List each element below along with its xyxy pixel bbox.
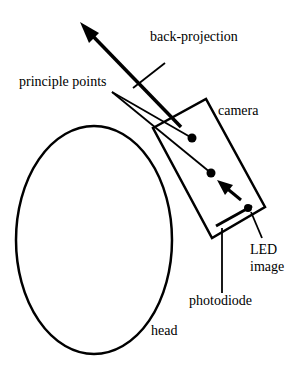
camera-led-diagram: back-projection principle points camera … <box>0 0 306 375</box>
led-label-line1: LED <box>250 242 277 257</box>
led-label-line2: image <box>250 259 284 274</box>
principle-point-2 <box>207 169 216 178</box>
led-image-dot <box>244 204 252 212</box>
led-image-leader <box>251 212 262 238</box>
camera-label: camera <box>218 103 259 118</box>
head-ellipse <box>16 126 172 354</box>
photodiode-label: photodiode <box>189 293 252 308</box>
back-projection-leader <box>133 63 165 88</box>
head-label: head <box>151 323 177 338</box>
back-projection-label: back-projection <box>150 29 238 44</box>
principle-point-1 <box>188 134 197 143</box>
principle-points-label: principle points <box>19 74 107 89</box>
